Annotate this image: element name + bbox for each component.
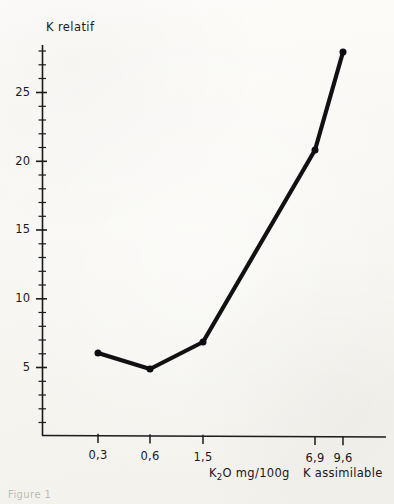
data-point	[147, 366, 154, 373]
y-tick-label-15: 15	[4, 222, 30, 236]
x-tick-label-9-6: 9,6	[323, 451, 363, 465]
figure-caption-partial: Figure 1	[8, 489, 51, 500]
data-point	[200, 339, 207, 346]
data-point	[95, 350, 102, 357]
x-caption-units: O mg/100g	[223, 466, 290, 480]
y-tick-label-5: 5	[4, 360, 30, 374]
data-point-markers	[95, 49, 347, 373]
x-caption-k-symbol: K	[209, 466, 217, 480]
x-tick-label-0-3: 0,3	[78, 448, 118, 462]
y-axis-title: K relatif	[46, 20, 94, 34]
x-axis-caption-k2o: K2O mg/100g	[209, 466, 290, 482]
chart-plot-area	[0, 0, 394, 504]
data-point	[312, 147, 319, 154]
y-tick-label-20: 20	[4, 154, 30, 168]
x-tick-label-1-5: 1,5	[183, 450, 223, 464]
y-tick-label-10: 10	[4, 291, 30, 305]
x-tick-label-0-6: 0,6	[130, 449, 170, 463]
x-axis-line	[42, 436, 386, 438]
data-point	[340, 49, 347, 56]
y-tick-label-25: 25	[4, 85, 30, 99]
x-axis-caption-k-assimilable: K assimilable	[303, 466, 383, 480]
data-line-k-relatif	[98, 52, 343, 369]
figure-page: K relatif 25 20 15 10 5 0,3 0,6 1,5 6,9 …	[0, 0, 394, 504]
